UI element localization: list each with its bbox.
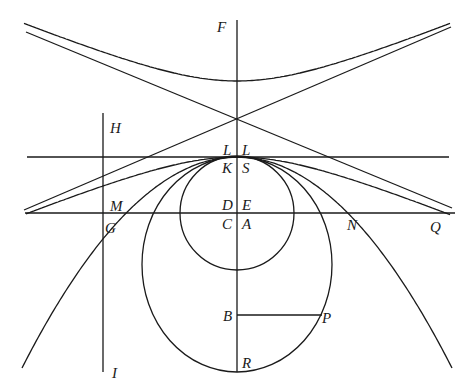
label-R: R	[241, 355, 251, 371]
conic-diagram: F H L L K S D E C A M G N Q B P R I	[0, 0, 476, 390]
label-H: H	[109, 120, 122, 136]
label-P: P	[321, 310, 331, 326]
label-I: I	[111, 365, 118, 381]
label-D: D	[221, 197, 233, 213]
label-M: M	[109, 198, 124, 214]
label-Q: Q	[430, 219, 441, 235]
label-L-left: L	[222, 142, 231, 158]
label-F: F	[216, 19, 227, 35]
label-L-right: L	[241, 142, 250, 158]
label-A: A	[241, 216, 252, 232]
label-C: C	[222, 216, 233, 232]
label-G: G	[105, 220, 116, 236]
label-S: S	[242, 160, 250, 176]
label-B: B	[223, 308, 232, 324]
label-K: K	[221, 160, 233, 176]
label-E: E	[241, 197, 251, 213]
hyperbola-lower-branch	[26, 157, 450, 215]
label-N: N	[346, 217, 358, 233]
